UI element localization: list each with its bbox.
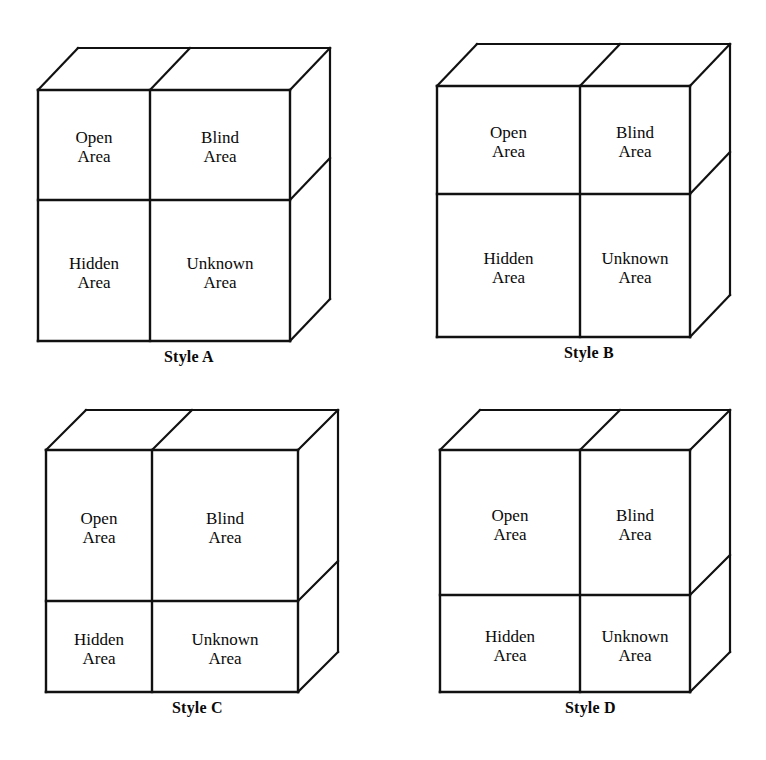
quadrant-label-blind-line1: Blind	[616, 506, 654, 525]
quadrant-label-open-line1: Open	[81, 509, 118, 528]
quadrant-label-blind: BlindArea	[206, 509, 244, 547]
quadrant-label-hidden-line1: Hidden	[483, 249, 534, 268]
quadrant-label-open-line1: Open	[490, 123, 527, 142]
quadrant-label-open: OpenArea	[492, 506, 529, 544]
cube-drawing: OpenAreaBlindAreaHiddenAreaUnknownArea	[383, 0, 766, 380]
style-caption-style-a: Style A	[0, 348, 383, 366]
quadrant-label-open: OpenArea	[81, 509, 118, 547]
quadrant-label-hidden-line2: Area	[82, 649, 115, 668]
quadrant-label-unknown-line1: Unknown	[601, 627, 669, 646]
quadrant-label-open-line2: Area	[82, 528, 115, 547]
quadrant-label-open-line2: Area	[493, 525, 526, 544]
cube-drawing: OpenAreaBlindAreaHiddenAreaUnknownArea	[0, 0, 383, 380]
quadrant-label-blind: BlindArea	[616, 506, 654, 544]
quadrant-label-blind-line1: Blind	[206, 509, 244, 528]
cube-side-face	[298, 410, 338, 692]
quadrant-label-open-line1: Open	[492, 506, 529, 525]
quadrant-label-unknown-line2: Area	[208, 649, 241, 668]
quadrant-label-unknown-line2: Area	[203, 273, 236, 292]
quadrant-label-unknown-line2: Area	[618, 268, 651, 287]
cube-panel-style-a: OpenAreaBlindAreaHiddenAreaUnknownAreaSt…	[0, 0, 383, 380]
quadrant-label-hidden-line2: Area	[493, 646, 526, 665]
quadrant-label-unknown-line2: Area	[618, 646, 651, 665]
quadrant-label-unknown-line1: Unknown	[601, 249, 669, 268]
quadrant-label-open-line1: Open	[76, 128, 113, 147]
quadrant-label-unknown-line1: Unknown	[191, 630, 259, 649]
quadrant-label-open-line2: Area	[492, 142, 525, 161]
style-caption-style-c: Style C	[0, 699, 383, 717]
quadrant-label-hidden-line2: Area	[492, 268, 525, 287]
cube-side-face	[690, 410, 730, 692]
cube-front-face	[440, 450, 690, 692]
cube-side-face	[690, 44, 730, 337]
quadrant-label-open: OpenArea	[76, 128, 113, 166]
quadrant-label-unknown-line1: Unknown	[186, 254, 254, 273]
quadrant-label-open-line2: Area	[77, 147, 110, 166]
style-caption-style-b: Style B	[383, 344, 766, 362]
cube-top-face	[437, 44, 730, 86]
quadrant-label-hidden-line1: Hidden	[485, 627, 536, 646]
quadrant-label-blind-line1: Blind	[616, 123, 654, 142]
quadrant-label-blind: BlindArea	[201, 128, 239, 166]
johari-window-figure: OpenAreaBlindAreaHiddenAreaUnknownAreaSt…	[0, 0, 766, 760]
quadrant-label-blind: BlindArea	[616, 123, 654, 161]
quadrant-label-hidden-line1: Hidden	[69, 254, 120, 273]
style-caption-style-d: Style D	[383, 699, 766, 717]
cube-panel-style-d: OpenAreaBlindAreaHiddenAreaUnknownAreaSt…	[383, 380, 766, 760]
quadrant-label-blind-line2: Area	[208, 528, 241, 547]
quadrant-label-hidden-line2: Area	[77, 273, 110, 292]
cube-top-face	[46, 410, 338, 450]
quadrant-label-blind-line1: Blind	[201, 128, 239, 147]
quadrant-label-blind-line2: Area	[618, 142, 651, 161]
quadrant-label-hidden-line1: Hidden	[74, 630, 125, 649]
quadrant-label-open: OpenArea	[490, 123, 527, 161]
quadrant-label-blind-line2: Area	[618, 525, 651, 544]
cube-panel-style-c: OpenAreaBlindAreaHiddenAreaUnknownAreaSt…	[0, 380, 383, 760]
cube-panel-style-b: OpenAreaBlindAreaHiddenAreaUnknownAreaSt…	[383, 0, 766, 380]
quadrant-label-blind-line2: Area	[203, 147, 236, 166]
